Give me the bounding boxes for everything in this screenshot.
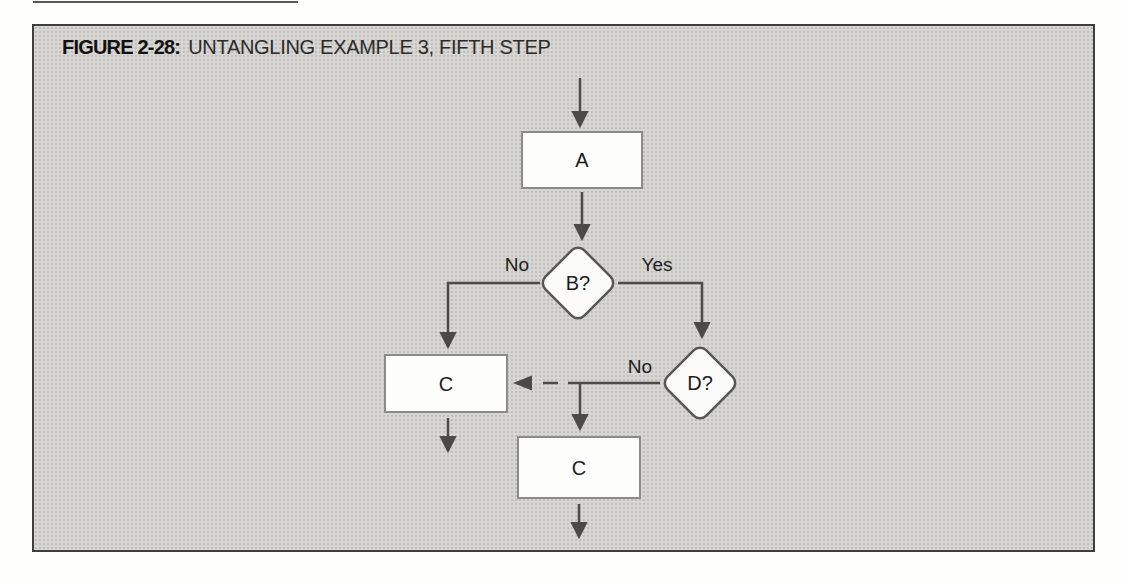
edge-label-b-no: No xyxy=(505,254,529,275)
node-a-label: A xyxy=(575,149,589,171)
node-d-label: D? xyxy=(687,372,713,394)
node-b-label: B? xyxy=(566,272,590,294)
node-c1-label: C xyxy=(439,373,453,395)
edge-d-no-dashed-arrowhead xyxy=(513,376,532,391)
node-c2-label: C xyxy=(572,457,586,479)
edge-label-d-no: No xyxy=(628,356,652,377)
edge-label-b-yes: Yes xyxy=(642,254,673,275)
edge-b-no-to-c1 xyxy=(448,283,540,346)
flowchart-diagram: A B? No Yes C D? No C xyxy=(0,0,1125,584)
scanned-book-page: FIGURE 2-28:UNTANGLING EXAMPLE 3, FIFTH … xyxy=(0,0,1125,584)
edge-b-yes-to-d xyxy=(618,283,702,336)
